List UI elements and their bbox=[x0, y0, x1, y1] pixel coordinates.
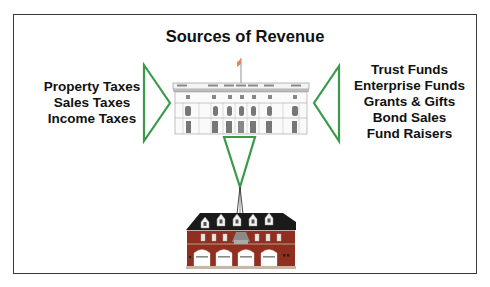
right-arrow-triangle-icon bbox=[314, 66, 339, 141]
down-arrow-triangle-icon bbox=[224, 137, 255, 187]
town-hall-icon bbox=[173, 58, 309, 134]
diagram-artwork bbox=[0, 0, 490, 287]
fire-station-icon bbox=[186, 187, 296, 269]
left-arrow-triangle-icon bbox=[144, 65, 170, 141]
